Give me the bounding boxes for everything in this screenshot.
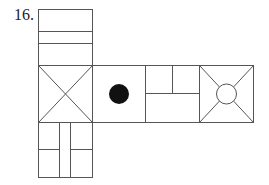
face-left <box>39 66 93 123</box>
black-dot-icon <box>109 84 129 104</box>
cube-net-diagram <box>0 0 269 185</box>
face-top <box>39 10 93 66</box>
face-far-right <box>200 66 254 123</box>
face-right <box>146 66 200 123</box>
face-center <box>93 66 146 123</box>
face-bottom <box>39 123 93 178</box>
circle-icon <box>217 84 237 104</box>
